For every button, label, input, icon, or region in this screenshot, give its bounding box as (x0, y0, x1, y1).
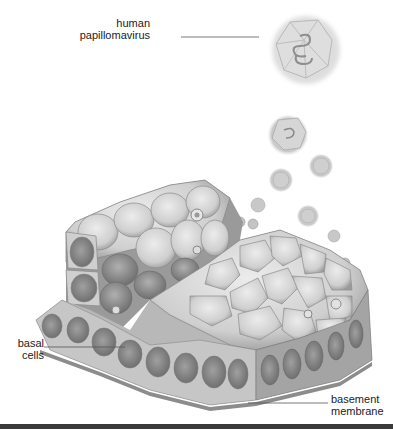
label-line: cells (6, 349, 44, 361)
label-line: papillomavirus (50, 29, 150, 41)
label-line: membrane (331, 405, 391, 417)
virus-large (272, 16, 340, 84)
label-basal-cells: basal cells (6, 337, 44, 361)
label-line: basement (331, 393, 391, 405)
label-line: basal (6, 337, 44, 349)
label-basement-membrane: basement membrane (331, 393, 391, 417)
bottom-rule (0, 424, 393, 429)
label-line: human (50, 17, 150, 29)
label-human-papillomavirus: human papillomavirus (50, 17, 150, 41)
epithelium-illustration (0, 0, 393, 431)
